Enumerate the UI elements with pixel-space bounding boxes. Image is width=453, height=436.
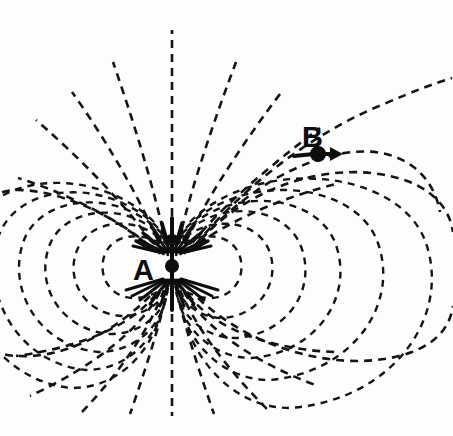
field-loops-right <box>174 178 432 408</box>
velocity-arrow-head <box>330 147 343 161</box>
field-line-down-left-1 <box>130 288 168 414</box>
field-line-canvas: A B <box>0 0 453 436</box>
field-line-left-arc-upper <box>0 190 150 246</box>
dipole-field-figure: A B <box>0 0 453 436</box>
dipole-upper-node <box>165 234 179 246</box>
source-point-a-dot <box>165 259 179 273</box>
label-b: B <box>302 121 323 153</box>
field-line-upper-right-sweep <box>196 78 452 244</box>
field-line-up-left-2 <box>72 92 164 255</box>
field-line-up-left-3 <box>36 120 160 254</box>
field-loop-right-4 <box>178 201 340 358</box>
field-line-down-right-3 <box>184 292 318 386</box>
label-a: A <box>133 254 154 286</box>
field-line-left-arc-lower <box>0 296 150 356</box>
field-lines-outer-arcs <box>0 78 453 361</box>
